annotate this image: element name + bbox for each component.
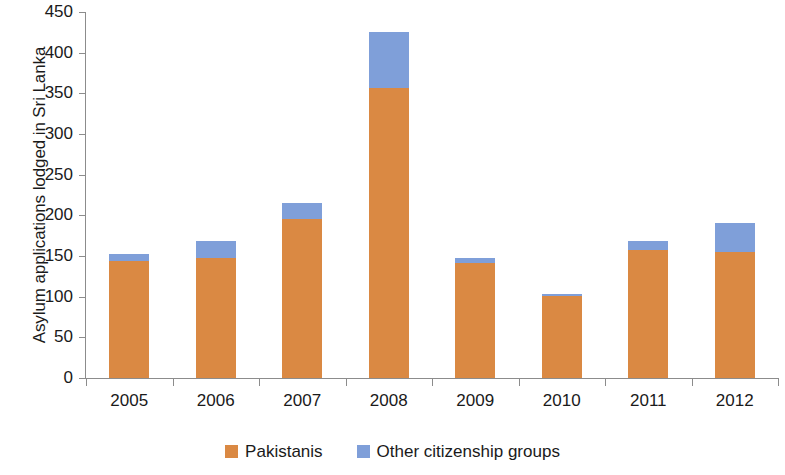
y-axis-tick [79, 12, 86, 13]
y-axis-tick-label: 0 [13, 369, 73, 386]
x-axis-tick [692, 379, 693, 386]
y-axis-tick [79, 93, 86, 94]
bar-segment-other-citizenship-groups [715, 223, 755, 252]
x-axis-tick-label: 2011 [605, 392, 691, 409]
bar-segment-pakistanis [542, 296, 582, 378]
bar-segment-pakistanis [715, 252, 755, 378]
x-axis-tick [605, 379, 606, 386]
x-axis-tick-label: 2006 [173, 392, 259, 409]
bar-segment-other-citizenship-groups [369, 32, 409, 89]
bar-2011 [628, 241, 668, 378]
x-axis-tick-label: 2010 [519, 392, 605, 409]
bar-2008 [369, 32, 409, 378]
legend-label: Other citizenship groups [377, 443, 560, 460]
stacked-bar-chart: Asylum applications lodged in Sri Lanka … [0, 0, 785, 475]
bar-2005 [109, 254, 149, 378]
bar-segment-pakistanis [109, 261, 149, 378]
y-axis-tick [79, 134, 86, 135]
x-axis-tick-label: 2008 [346, 392, 432, 409]
x-axis-tick [259, 379, 260, 386]
x-axis-tick [778, 379, 779, 386]
bar-segment-pakistanis [282, 219, 322, 378]
x-axis-tick [519, 379, 520, 386]
y-axis-tick [79, 256, 86, 257]
plot-area [86, 12, 778, 378]
legend-item: Pakistanis [225, 443, 322, 460]
y-axis-tick-label: 400 [13, 44, 73, 61]
legend-swatch-icon [225, 445, 238, 458]
bar-2009 [455, 258, 495, 378]
y-axis-tick-label: 250 [13, 166, 73, 183]
bar-segment-pakistanis [369, 88, 409, 378]
bar-segment-other-citizenship-groups [628, 241, 668, 250]
bar-segment-other-citizenship-groups [196, 241, 236, 258]
x-axis-tick [86, 379, 87, 386]
bar-segment-pakistanis [628, 250, 668, 378]
legend-swatch-icon [357, 445, 370, 458]
y-axis-tick [79, 53, 86, 54]
y-axis-tick-label: 350 [13, 84, 73, 101]
legend-label: Pakistanis [245, 443, 322, 460]
x-axis-tick-label: 2007 [259, 392, 345, 409]
y-axis-tick [79, 215, 86, 216]
x-axis-tick [432, 379, 433, 386]
bar-2010 [542, 294, 582, 378]
y-axis-tick-label: 50 [13, 328, 73, 345]
bar-segment-pakistanis [196, 258, 236, 378]
bar-2007 [282, 203, 322, 378]
bar-segment-other-citizenship-groups [282, 203, 322, 218]
x-axis-tick-label: 2005 [86, 392, 172, 409]
y-axis-tick-label: 300 [13, 125, 73, 142]
y-axis-tick-label: 450 [13, 3, 73, 20]
legend-item: Other citizenship groups [357, 443, 560, 460]
x-axis-tick-label: 2012 [692, 392, 778, 409]
chart-legend: PakistanisOther citizenship groups [0, 443, 785, 460]
y-axis-tick [79, 337, 86, 338]
y-axis-tick-label: 200 [13, 206, 73, 223]
x-axis-tick [346, 379, 347, 386]
x-axis-tick [173, 379, 174, 386]
y-axis-tick [79, 297, 86, 298]
bar-2006 [196, 241, 236, 378]
y-axis-tick-label: 100 [13, 288, 73, 305]
bar-segment-other-citizenship-groups [109, 254, 149, 261]
y-axis-tick [79, 175, 86, 176]
bar-2012 [715, 223, 755, 378]
y-axis-tick [79, 378, 86, 379]
bar-segment-pakistanis [455, 263, 495, 378]
y-axis-tick-label: 150 [13, 247, 73, 264]
x-axis-tick-label: 2009 [432, 392, 518, 409]
